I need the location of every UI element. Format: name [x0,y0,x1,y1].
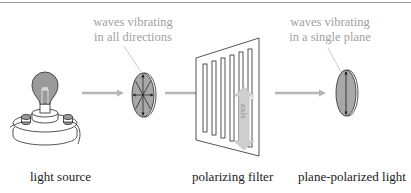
plane-polarized-light-label: plane-polarized light [298,169,406,185]
filter-axis-label: axis [239,104,249,119]
unpolarized-waves-icon [132,73,156,117]
unpolarized-annotation-line-2: in all directions [83,30,183,45]
light-ray-arrow-3 [275,90,326,97]
polarized-annotation-line-1: waves vibrating [280,15,380,30]
polarized-annotation: waves vibrating in a single plane [280,15,380,45]
light-ray-arrow-1 [82,90,124,97]
annotation-leader-2 [328,48,341,72]
unpolarized-annotation-line-1: waves vibrating [83,15,183,30]
light-source-label: light source [30,169,91,185]
polarized-annotation-line-2: in a single plane [280,30,380,45]
unpolarized-annotation: waves vibrating in all directions [83,15,183,45]
polarized-wave-icon [336,70,358,116]
light-bulb-icon [10,72,80,145]
polarizing-filter-label: polarizing filter [192,169,273,185]
annotation-leader-1 [124,46,141,72]
